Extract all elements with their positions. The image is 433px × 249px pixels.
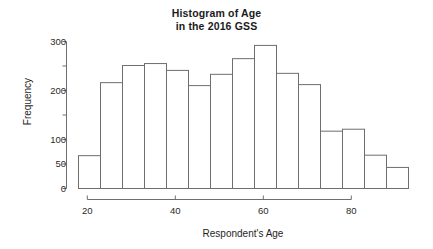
histogram-bar (343, 129, 365, 188)
histogram-bar (321, 131, 343, 188)
x-axis (87, 196, 351, 200)
histogram-bar (189, 86, 211, 189)
histogram-bar (145, 64, 167, 189)
y-axis-tick: 300 (22, 36, 66, 48)
y-axis-tick-label: 100 (26, 134, 66, 145)
y-axis-tick-label: 0 (26, 183, 66, 194)
histogram-bar (167, 70, 189, 188)
x-axis-tick-label: 20 (67, 205, 107, 216)
histogram-bar (299, 85, 321, 189)
y-axis-tick: 50 (22, 158, 66, 170)
y-axis-tick-label: 200 (26, 85, 66, 96)
x-axis-tick-label: 40 (155, 205, 195, 216)
y-axis-tick: 100 (22, 134, 66, 146)
histogram-bar (365, 155, 387, 188)
y-axis-tick-label: 300 (26, 36, 66, 47)
x-axis-tick-label: 80 (331, 205, 371, 216)
x-axis-title: Respondent's Age (78, 228, 408, 239)
histogram-bars (79, 45, 409, 188)
histogram-bar (123, 66, 145, 189)
plot-area: Frequency Respondent's Age 050100200300 … (0, 0, 433, 249)
x-axis-tick-label: 60 (243, 205, 283, 216)
histogram-screenshot: Histogram of Age in the 2016 GSS Frequen… (0, 0, 433, 249)
y-axis-tick: 0 (22, 183, 66, 195)
histogram-bar (277, 73, 299, 188)
histogram-bar (233, 59, 255, 189)
y-axis-tick-label: 50 (26, 158, 66, 169)
histogram-bar (211, 74, 233, 188)
histogram-bar (79, 156, 101, 189)
histogram-bar (255, 45, 277, 188)
histogram-bar (101, 83, 123, 189)
y-axis-tick: 200 (22, 85, 66, 97)
histogram-bar (387, 167, 409, 188)
